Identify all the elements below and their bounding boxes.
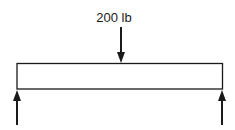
load-label: 200 lb — [96, 10, 131, 25]
beam — [17, 64, 223, 90]
right-reaction-arrow-up-icon — [218, 90, 226, 125]
beam-diagram: 200 lb — [0, 0, 235, 130]
load-arrow-down-icon — [117, 27, 125, 63]
left-reaction-arrow-up-icon — [13, 90, 21, 125]
